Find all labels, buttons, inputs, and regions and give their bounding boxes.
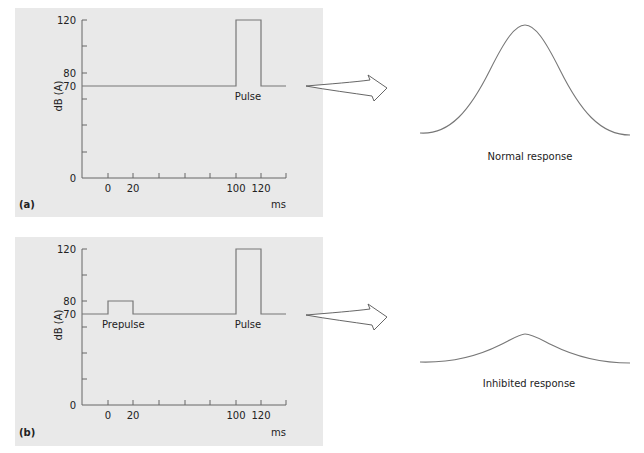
x-tick-100-b: 100 — [226, 410, 245, 421]
x-tick-0-b: 0 — [105, 410, 111, 421]
x-unit-a: ms — [271, 199, 286, 210]
arrow-icon-a — [306, 75, 387, 101]
y-tick-80-b: 80 — [63, 296, 76, 307]
x-tick-20-a: 20 — [127, 183, 140, 194]
inhibited-response-curve — [420, 334, 630, 363]
y-axis-label-b: dB (A) — [53, 309, 64, 340]
panel-letter-b: (b) — [19, 427, 35, 438]
x-tick-0-a: 0 — [105, 183, 111, 194]
normal-response-curve — [420, 25, 630, 135]
stimulus-trace-a — [82, 20, 286, 86]
panel-letter-a: (a) — [19, 199, 35, 210]
x-tick-100-a: 100 — [226, 183, 245, 194]
labels-a: 120 80 70 0 0 20 100 120 ms (a) Pulse dB… — [19, 15, 286, 210]
y-tick-120-a: 120 — [57, 15, 76, 26]
y-tick-70-a: 70 — [63, 81, 76, 92]
y-tick-70-b: 70 — [63, 309, 76, 320]
pulse-label-b: Pulse — [235, 319, 261, 330]
prepulse-label-b: Prepulse — [102, 319, 145, 330]
figure-canvas: 120 80 70 0 0 20 100 120 ms (a) Pulse dB… — [0, 0, 644, 453]
pulse-label-a: Pulse — [235, 91, 261, 102]
y-tick-0-a: 0 — [70, 173, 76, 184]
normal-response-caption: Normal response — [488, 151, 573, 162]
y-tick-120-b: 120 — [57, 244, 76, 255]
y-axis-label-a: dB (A) — [53, 80, 64, 111]
y-tick-80-a: 80 — [63, 68, 76, 79]
x-tick-120-a: 120 — [251, 183, 270, 194]
y-tick-0-b: 0 — [70, 400, 76, 411]
x-unit-b: ms — [271, 427, 286, 438]
x-tick-120-b: 120 — [251, 410, 270, 421]
inhibited-response-caption: Inhibited response — [483, 378, 576, 389]
x-tick-20-b: 20 — [127, 410, 140, 421]
